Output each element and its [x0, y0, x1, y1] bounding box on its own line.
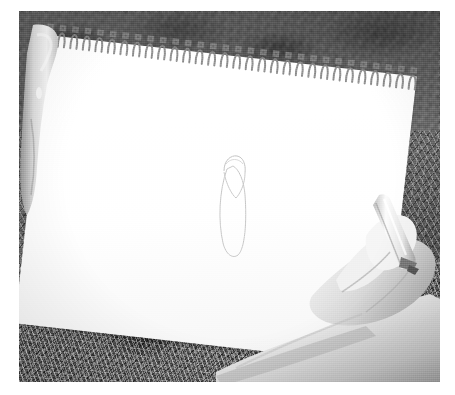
- spiral-coil-nub: [86, 29, 91, 33]
- spiral-coil-nub: [211, 44, 216, 48]
- spiral-coil-nub: [123, 33, 128, 37]
- spiral-coil: [208, 51, 216, 65]
- spiral-coil: [346, 68, 354, 82]
- spiral-coil-nub: [148, 36, 153, 40]
- pencil: [365, 191, 440, 275]
- spiral-coil: [271, 59, 279, 73]
- spiral-coil: [296, 62, 304, 76]
- spiral-coil: [70, 35, 78, 49]
- spiral-coil-nub: [399, 67, 404, 71]
- spiral-coil: [158, 45, 166, 59]
- spiral-coil-nub: [324, 58, 329, 62]
- spiral-coil: [220, 53, 228, 67]
- spiral-coil-nub: [361, 62, 366, 66]
- spiral-coil: [383, 72, 391, 86]
- spiral-coil: [371, 71, 379, 85]
- spiral-coil: [83, 36, 91, 50]
- spiral-coil: [321, 65, 329, 79]
- spiral-coil-nub: [261, 50, 266, 54]
- spiral-coil-nub: [336, 59, 341, 63]
- left-hand: [19, 19, 69, 249]
- spiral-coil-nub: [186, 41, 191, 45]
- spiral-coil-nub: [173, 39, 178, 43]
- spiral-coil-nub: [286, 53, 291, 57]
- spiral-coil-nub: [198, 42, 203, 46]
- spiral-coil-nub: [98, 30, 103, 34]
- spiral-coil: [133, 42, 141, 56]
- spiral-coil: [233, 54, 241, 68]
- spiral-coil: [120, 41, 128, 55]
- spiral-coil-nub: [386, 65, 391, 69]
- spiral-coil: [195, 50, 203, 64]
- spiral-coil: [283, 60, 291, 74]
- spiral-coil-nub: [299, 55, 304, 59]
- spiral-coil-nub: [248, 49, 253, 53]
- spiral-coil: [308, 63, 316, 77]
- spiral-coil: [246, 56, 254, 70]
- spiral-coil-nub: [161, 38, 166, 42]
- spiral-coil-nub: [236, 47, 241, 51]
- photo-frame: Hand holding spiral sketchpad on grass B…: [0, 0, 455, 395]
- spiral-coil-nub: [136, 35, 141, 39]
- spiral-coil: [333, 66, 341, 80]
- spiral-coil: [396, 74, 404, 88]
- spiral-coil: [95, 38, 103, 52]
- sketchpad: [19, 11, 440, 382]
- spiral-coil-nub: [223, 45, 228, 49]
- spiral-coil: [258, 57, 266, 71]
- photograph: [19, 11, 440, 382]
- spiral-coil-nub: [111, 32, 116, 36]
- spiral-coil-nub: [274, 52, 279, 56]
- spiral-coil-nub: [349, 61, 354, 65]
- spiral-coil-nub: [411, 68, 416, 72]
- spiral-coil: [108, 39, 116, 53]
- spiral-coil: [183, 48, 191, 62]
- spiral-coil-nub: [374, 64, 379, 68]
- spiral-coil-nub: [73, 27, 78, 31]
- spiral-coil-nub: [311, 56, 316, 60]
- spiral-coil: [170, 47, 178, 61]
- spiral-coil: [358, 69, 366, 83]
- spiral-coil: [408, 75, 416, 89]
- spiral-coil: [145, 44, 153, 58]
